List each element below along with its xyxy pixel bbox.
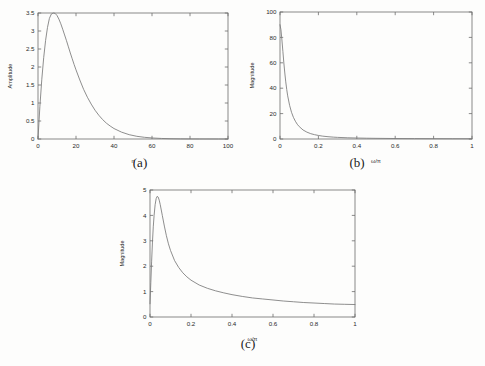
x-tick-label: 1 xyxy=(353,320,357,327)
y-tick-label: 5 xyxy=(143,186,147,193)
y-tick-label: 2 xyxy=(31,63,35,70)
y-tick-label: 3 xyxy=(143,237,147,244)
y-axis-title: Magnitude xyxy=(249,62,255,88)
x-tick-label: 0 xyxy=(36,142,40,149)
panel-b: 00.20.40.60.81020406080100ω/πMagnitude xyxy=(245,0,485,150)
x-tick-label: 100 xyxy=(223,142,234,149)
x-tick-label: 20 xyxy=(73,142,80,149)
y-tick-label: 0 xyxy=(31,135,35,142)
x-tick-label: 0.2 xyxy=(187,320,196,327)
y-tick-label: 0 xyxy=(273,135,277,142)
y-tick-label: 4 xyxy=(143,212,147,219)
x-tick-label: 0.4 xyxy=(352,142,361,149)
y-axis-title: Magnitude xyxy=(119,240,125,266)
x-tick-label: 80 xyxy=(187,142,194,149)
panel-a: 02040608010000.511.522.533.5nAmplitude xyxy=(0,0,240,150)
panel-c: 00.20.40.60.81012345ω/πMagnitude xyxy=(110,178,370,333)
data-curve xyxy=(38,13,228,139)
y-tick-label: 1 xyxy=(31,99,35,106)
panel-a-caption: (a) xyxy=(120,155,160,171)
y-tick-label: 2.5 xyxy=(26,45,35,52)
y-tick-label: 1.5 xyxy=(26,81,35,88)
y-tick-label: 20 xyxy=(270,110,277,117)
y-tick-label: 60 xyxy=(270,59,277,66)
x-tick-label: 0.8 xyxy=(429,142,438,149)
y-tick-label: 3 xyxy=(31,27,35,34)
y-tick-label: 3.5 xyxy=(26,9,35,16)
x-tick-label: 0.6 xyxy=(269,320,278,327)
panel-b-plot: 00.20.40.60.81020406080100ω/πMagnitude xyxy=(245,0,485,150)
x-tick-label: 0.8 xyxy=(310,320,319,327)
figure-container: 02040608010000.511.522.533.5nAmplitude (… xyxy=(0,0,485,366)
x-tick-label: 0 xyxy=(278,142,282,149)
y-tick-label: 0.5 xyxy=(26,117,35,124)
y-tick-label: 2 xyxy=(143,262,147,269)
x-tick-label: 1 xyxy=(470,142,474,149)
y-tick-label: 100 xyxy=(266,8,277,15)
x-tick-label: 0.6 xyxy=(391,142,400,149)
x-tick-label: 0 xyxy=(148,320,152,327)
panel-b-caption: (b) xyxy=(337,155,377,171)
x-tick-label: 60 xyxy=(149,142,156,149)
x-tick-label: 40 xyxy=(111,142,118,149)
y-tick-label: 80 xyxy=(270,34,277,41)
x-tick-label: 0.2 xyxy=(314,142,323,149)
panel-c-plot: 00.20.40.60.81012345ω/πMagnitude xyxy=(110,178,370,333)
y-tick-label: 40 xyxy=(270,84,277,91)
panel-a-plot: 02040608010000.511.522.533.5nAmplitude xyxy=(0,0,240,150)
y-tick-label: 0 xyxy=(143,313,147,320)
panel-c-caption: (c) xyxy=(228,336,268,352)
data-curve xyxy=(150,196,355,304)
y-axis-title: Amplitude xyxy=(7,64,13,89)
y-tick-label: 1 xyxy=(143,288,147,295)
x-tick-label: 0.4 xyxy=(228,320,237,327)
data-curve xyxy=(280,25,472,139)
